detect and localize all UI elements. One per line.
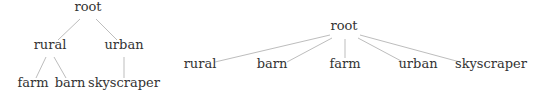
node-rural: rural [184,56,217,71]
node-urban: urban [104,37,144,52]
edge-root-urban [358,38,403,62]
flat-tree: rootruralbarnfarmurbanskyscraper [184,18,528,71]
node-barn: barn [257,56,288,71]
node-skyscraper: skyscraper [88,75,161,90]
hierarchical-tree: rootruralurbanfarmbarnskyscraper [17,0,160,90]
tree-diagrams: rootruralurbanfarmbarnskyscraper rootrur… [0,0,538,93]
node-root: root [330,18,358,33]
node-farm: farm [17,75,48,90]
node-rural: rural [34,37,67,52]
node-barn: barn [55,75,86,90]
node-urban: urban [398,56,438,71]
edge-root-barn [287,38,332,62]
node-skyscraper: skyscraper [455,56,528,71]
node-farm: farm [329,56,360,71]
node-root: root [74,0,102,14]
